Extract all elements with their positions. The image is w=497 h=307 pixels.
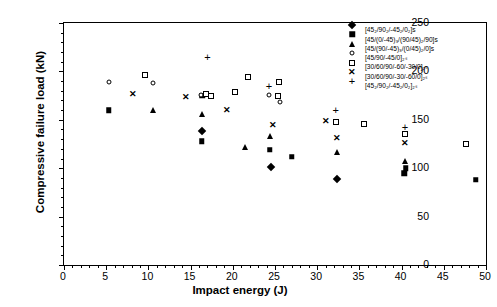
data-point [197,127,205,135]
x-axis-minor-tick [385,265,386,268]
x-axis-minor-tick [334,265,335,268]
y-axis-tick-label: 250 [395,17,429,27]
data-point [473,177,479,183]
data-point: + [331,106,340,115]
y-axis-minor-tick [61,52,64,53]
x-axis-minor-tick [98,265,99,268]
x-axis-minor-tick [140,265,141,268]
x-axis-tick-label: 15 [175,270,205,282]
data-point [242,144,248,150]
legend-label: [45/(0/-45)₃/(90/45)₂/90]s [365,36,438,43]
data-point [275,93,281,99]
legend-label: [45₂/90₂/-45₂/0₂]₂ₛ [365,82,418,90]
data-point: ✕ [129,89,138,98]
data-point [278,100,283,105]
data-point [106,107,112,113]
y-axis-tick [59,23,64,24]
data-point [361,121,367,127]
data-point [150,81,155,86]
x-axis-minor-tick [368,265,369,268]
x-axis-tick-label: 50 [470,270,497,282]
data-point [199,138,205,144]
x-axis-minor-tick [283,265,284,268]
x-axis-minor-tick [132,265,133,268]
data-point [208,93,214,99]
data-point [142,72,148,78]
y-axis-minor-tick [61,100,64,101]
y-axis-tick-label: 100 [395,162,429,172]
y-axis-minor-tick [61,255,64,256]
data-point: ✕ [222,106,231,115]
y-axis-minor-tick [61,62,64,63]
data-point [150,107,156,113]
data-point [333,119,339,125]
y-axis-minor-tick [61,236,64,237]
y-axis-minor-tick [61,178,64,179]
x-axis-minor-tick [81,265,82,268]
x-axis-minor-tick [326,265,327,268]
data-point [232,89,238,95]
x-axis-minor-tick [199,265,200,268]
data-point-open-square [349,60,355,66]
data-point [402,131,408,137]
y-axis-tick [59,71,64,72]
x-axis-minor-tick [376,265,377,268]
y-axis-tick-label: 50 [395,211,429,221]
y-axis-tick-label: 0 [395,259,429,269]
data-point-open-circle [350,51,355,56]
x-axis-tick-label: 45 [428,270,458,282]
y-axis-minor-tick [61,129,64,130]
legend-label: [45/(90/-45)₃/(0/45)₂/0]s [365,45,434,52]
data-point [267,133,273,139]
y-axis-minor-tick [61,188,64,189]
x-axis-minor-tick [267,265,268,268]
x-axis-minor-tick [182,265,183,268]
data-point-filled-triangle [349,41,355,47]
data-point [267,163,275,171]
data-point [276,79,282,85]
x-axis-minor-tick [250,265,251,268]
x-axis-tick-label: 5 [90,270,120,282]
y-axis-tick-label: 200 [395,65,429,75]
x-axis-minor-tick [89,265,90,268]
x-axis-minor-tick [216,265,217,268]
data-point: ✕ [400,139,409,148]
x-axis-tick-label: 25 [259,270,289,282]
x-axis-minor-tick [452,265,453,268]
data-point [289,154,295,160]
data-point: + [265,81,274,90]
x-axis-minor-tick [72,265,73,268]
y-axis-tick [59,217,64,218]
x-axis-minor-tick [478,265,479,268]
x-axis-minor-tick [351,265,352,268]
x-axis-minor-tick [292,265,293,268]
legend-marker-plus: + [352,81,365,90]
y-axis-minor-tick [61,33,64,34]
y-axis-tick-label: 150 [395,114,429,124]
x-axis-label: Impact energy (J) [60,284,420,296]
chart-figure: Compressive failure load (kN) Impact ene… [0,0,497,307]
x-axis-minor-tick [157,265,158,268]
x-axis-minor-tick [469,265,470,268]
y-axis-minor-tick [61,159,64,160]
data-point-filled-square [349,32,355,38]
data-point [106,80,111,85]
x-axis-minor-tick [224,265,225,268]
data-point [267,92,272,97]
legend-label: [45₂/90₂/-45₂/0₂]s [365,26,416,33]
x-axis-tick-label: 10 [132,270,162,282]
x-axis-tick-label: 30 [301,270,331,282]
legend-item: [45/(0/-45)₃/(90/45)₂/90]s [352,34,484,43]
x-axis-minor-tick [393,265,394,268]
y-axis-minor-tick [61,207,64,208]
x-axis-minor-tick [165,265,166,268]
x-axis-minor-tick [435,265,436,268]
x-axis-minor-tick [207,265,208,268]
y-axis-tick [59,120,64,121]
data-point: ✕ [269,120,278,129]
x-axis-tick-label: 0 [48,270,78,282]
data-point [334,149,340,155]
data-point: + [203,52,212,61]
y-axis-minor-tick [61,81,64,82]
x-axis-minor-tick [343,265,344,268]
